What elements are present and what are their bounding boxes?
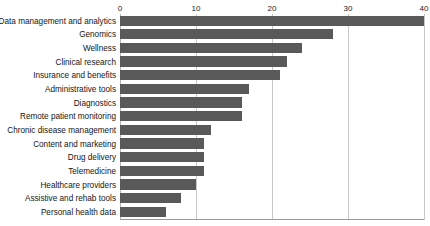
bar — [120, 56, 287, 66]
bar-row: Clinical research — [0, 55, 430, 69]
bar-row: Administrative tools — [0, 82, 430, 96]
bar-row: Chronic disease management — [0, 123, 430, 137]
x-tick-label-0: 0 — [118, 4, 122, 13]
category-label: Personal health data — [41, 208, 116, 217]
category-label: Insurance and benefits — [33, 71, 116, 80]
bar-row: Assistive and rehab tools — [0, 192, 430, 206]
category-label: Wellness — [83, 44, 116, 53]
bar-row: Wellness — [0, 41, 430, 55]
category-label: Genomics — [79, 30, 116, 39]
bar-row: Diagnostics — [0, 96, 430, 110]
bar — [120, 70, 280, 80]
category-label: Data management and analytics — [0, 16, 116, 25]
bar-row: Genomics — [0, 28, 430, 42]
x-tick-label-20: 20 — [268, 4, 277, 13]
bar-row: Healthcare providers — [0, 178, 430, 192]
bar — [120, 166, 204, 176]
x-tick-label-40: 40 — [420, 4, 429, 13]
bar-row: Remote patient monitoring — [0, 110, 430, 124]
bar-rows: Data management and analyticsGenomicsWel… — [0, 14, 430, 220]
bar-row: Personal health data — [0, 205, 430, 219]
category-label: Clinical research — [55, 57, 116, 66]
bar-chart: 010203040 Data management and analyticsG… — [0, 0, 430, 226]
category-label: Telemedicine — [68, 167, 116, 176]
category-label: Assistive and rehab tools — [25, 194, 116, 203]
category-label: Remote patient monitoring — [20, 112, 116, 121]
bar — [120, 193, 181, 203]
bar-row: Drug delivery — [0, 151, 430, 165]
axis-baseline — [120, 219, 424, 220]
bar-row: Insurance and benefits — [0, 69, 430, 83]
bar-row: Telemedicine — [0, 164, 430, 178]
x-tick-label-10: 10 — [192, 4, 201, 13]
bar-row: Data management and analytics — [0, 14, 430, 28]
category-label: Diagnostics — [74, 98, 116, 107]
bar — [120, 43, 302, 53]
bar — [120, 125, 211, 135]
category-label: Administrative tools — [45, 85, 116, 94]
bar — [120, 111, 242, 121]
x-tick-label-30: 30 — [344, 4, 353, 13]
category-label: Chronic disease management — [7, 126, 116, 135]
bar — [120, 97, 242, 107]
bar — [120, 84, 249, 94]
category-label: Healthcare providers — [40, 180, 116, 189]
bar — [120, 152, 204, 162]
bar — [120, 16, 424, 26]
bar-row: Content and marketing — [0, 137, 430, 151]
bar — [120, 29, 333, 39]
category-label: Drug delivery — [68, 153, 116, 162]
category-label: Content and marketing — [33, 139, 116, 148]
bar — [120, 179, 196, 189]
bar — [120, 138, 204, 148]
bar — [120, 207, 166, 217]
